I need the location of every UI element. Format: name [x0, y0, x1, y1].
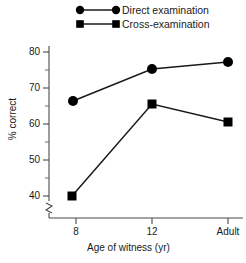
- data-point: [147, 64, 157, 74]
- y-tick-label-40: 40: [18, 190, 40, 201]
- x-tick-label-12: 12: [127, 226, 177, 237]
- x-tick-label-8: 8: [51, 226, 101, 237]
- legend-label-direct: Direct examination: [122, 4, 209, 16]
- y-axis-title: % correct: [7, 98, 18, 140]
- data-point: [68, 192, 77, 201]
- plot-area: [0, 0, 246, 263]
- x-axis-title: Age of witness (yr): [87, 242, 170, 253]
- legend-sample-cross: [76, 20, 120, 28]
- data-point: [224, 118, 233, 127]
- y-tick-label-50: 50: [18, 154, 40, 165]
- legend-label-cross: Cross-examination: [122, 18, 210, 30]
- series-cross-examination: [68, 100, 233, 201]
- x-major-ticks: [76, 218, 228, 224]
- data-point: [223, 57, 233, 67]
- series-direct-examination: [68, 57, 233, 106]
- legend-sample-direct: [76, 6, 120, 14]
- x-tick-label-adult: Adult: [203, 226, 246, 237]
- y-tick-label-80: 80: [18, 46, 40, 57]
- y-major-ticks: [43, 52, 49, 196]
- y-tick-label-60: 60: [18, 118, 40, 129]
- data-point: [148, 100, 157, 109]
- chart-figure: Direct examination Cross-examination 80 …: [0, 0, 246, 263]
- y-tick-label-70: 70: [18, 82, 40, 93]
- y-axis-title-wrapper: % correct: [2, 84, 20, 154]
- y-axis-break-icon: [46, 203, 52, 213]
- data-point: [68, 96, 78, 106]
